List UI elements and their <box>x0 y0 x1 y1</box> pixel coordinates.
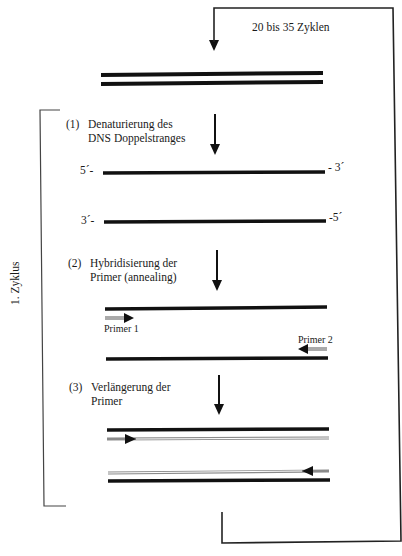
step-1-line2: DNS Doppelstranges <box>88 131 185 145</box>
primer-1-label: Primer 1 <box>104 322 139 336</box>
strand-top-annealing <box>105 307 327 309</box>
step-2-line2: Primer (annealing) <box>90 270 177 284</box>
loop-count-label: 20 bis 35 Zyklen <box>252 20 330 34</box>
strand-label-bottom-left: 3´- <box>81 213 94 227</box>
step-2-label: (2) Hybridisierung der Primer (annealing… <box>68 256 228 286</box>
step-1-number: (1) <box>66 117 79 131</box>
cycle-label: 1. Zyklus <box>8 262 22 305</box>
step-1-label: (1) Denaturierung des DNS Doppelstranges <box>66 117 226 147</box>
strand-label-top-left: 5´- <box>80 163 93 177</box>
extended-primer-1 <box>107 434 329 444</box>
strand-bottom-3-5 <box>104 221 326 222</box>
double-strand-dna <box>101 73 323 84</box>
step-3-line2: Primer <box>91 394 122 408</box>
step-2-number: (2) <box>68 256 81 270</box>
extended-primer-2 <box>108 466 329 476</box>
strand-label-top-right: - 3´ <box>328 160 344 174</box>
strand-label-bottom-right: -5´ <box>329 210 342 224</box>
strand-bottom-extension <box>108 480 330 481</box>
step-2-line1: Hybridisierung der <box>90 256 177 270</box>
step-3-line1: Verlängerung der <box>91 380 171 394</box>
primer-2-label: Primer 2 <box>298 333 333 347</box>
step-1-line1: Denaturierung des <box>88 117 173 131</box>
step-3-label: (3) Verlängerung der Primer <box>69 380 229 410</box>
cycle-loop-arrow <box>209 8 401 543</box>
strand-bottom-annealing <box>106 358 328 359</box>
step-3-number: (3) <box>69 380 82 394</box>
strand-top-5-3 <box>103 172 325 173</box>
strand-top-extension <box>107 429 329 430</box>
cycle-bracket <box>40 110 66 506</box>
